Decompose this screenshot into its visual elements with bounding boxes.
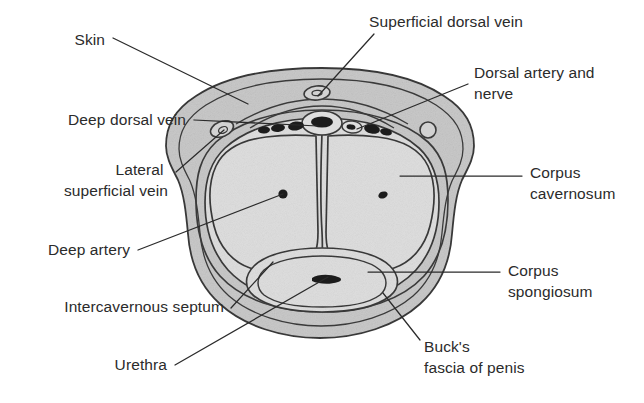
label-lateral-superficial-vein: Lateral superficial vein xyxy=(64,161,168,199)
label-corpus-spongiosum-line1: Corpus xyxy=(508,262,559,279)
penis-cross-section-diagram: Skin Deep dorsal vein Lateral superficia… xyxy=(0,0,644,403)
label-dorsal-artery-and-nerve: Dorsal artery and nerve xyxy=(474,64,599,102)
label-dorsal-artery-and-nerve-line1: Dorsal artery and xyxy=(474,64,595,81)
label-bucks-fascia-of-penis: Buck's fascia of penis xyxy=(424,338,525,376)
lateral-superficial-vein-right xyxy=(420,122,436,138)
label-corpus-spongiosum-line2: spongiosum xyxy=(508,283,593,300)
label-deep-artery: Deep artery xyxy=(48,241,130,258)
label-bucks-fascia-of-penis-line1: Buck's xyxy=(424,338,470,355)
anatomy-figure-page: Skin Deep dorsal vein Lateral superficia… xyxy=(0,0,644,403)
label-superficial-dorsal-vein: Superficial dorsal vein xyxy=(369,13,523,30)
label-corpus-cavernosum-line1: Corpus xyxy=(530,164,581,181)
label-skin: Skin xyxy=(74,31,105,48)
label-deep-dorsal-vein: Deep dorsal vein xyxy=(68,111,186,128)
label-lateral-superficial-vein-line1: Lateral xyxy=(115,161,163,178)
label-bucks-fascia-of-penis-line2: fascia of penis xyxy=(424,359,525,376)
label-intercavernous-septum: Intercavernous septum xyxy=(64,298,224,315)
label-corpus-cavernosum-line2: cavernosum xyxy=(530,185,615,202)
leader-skin xyxy=(113,38,248,104)
label-dorsal-artery-and-nerve-line2: nerve xyxy=(474,85,513,102)
label-urethra: Urethra xyxy=(115,356,168,373)
label-corpus-cavernosum: Corpus cavernosum xyxy=(530,164,615,202)
label-corpus-spongiosum: Corpus spongiosum xyxy=(508,262,593,300)
label-lateral-superficial-vein-line2: superficial vein xyxy=(64,182,168,199)
